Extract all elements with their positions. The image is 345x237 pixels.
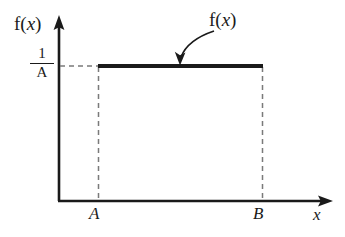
callout-arrow-curve xyxy=(181,31,214,57)
figure-canvas xyxy=(0,0,345,237)
y-axis-label-paren-close: ) xyxy=(35,13,41,34)
callout-label-paren-close: ) xyxy=(230,9,236,30)
y-axis-label-variable: x xyxy=(27,13,35,34)
x-axis-label: x xyxy=(313,206,321,223)
x-tick-label-a: A xyxy=(89,205,99,222)
y-axis-label: f(x) xyxy=(14,14,41,33)
density-callout-label: f(x) xyxy=(209,10,236,29)
callout-label-variable: x xyxy=(222,9,230,30)
fraction-denominator: A xyxy=(30,65,54,81)
uniform-distribution-figure: f(x) 1 A f(x) A B x xyxy=(0,0,345,237)
height-label-fraction: 1 A xyxy=(30,46,54,81)
callout-arrowhead-icon xyxy=(175,52,186,66)
fraction-numerator: 1 xyxy=(30,46,54,62)
x-tick-label-b: B xyxy=(253,205,263,222)
